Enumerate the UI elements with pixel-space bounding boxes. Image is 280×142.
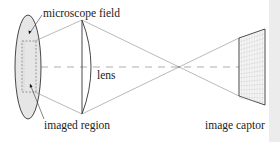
label-image-captor: image captor	[205, 120, 265, 132]
ray-bottom-in	[35, 92, 82, 114]
ray-top-out	[82, 20, 239, 96]
label-lens: lens	[97, 70, 116, 82]
image-captor	[239, 29, 265, 105]
ray-top-in	[35, 20, 82, 41]
microscope-field-ellipse	[15, 15, 41, 119]
focal-point	[178, 66, 180, 68]
label-microscope-field: microscope field	[43, 8, 120, 20]
label-imaged-region: imaged region	[44, 120, 110, 132]
optics-diagram: microscope field lens imaged region imag…	[0, 0, 280, 142]
